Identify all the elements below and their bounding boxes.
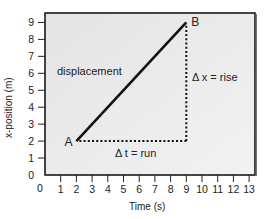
plot-shadow <box>256 14 257 176</box>
y-tick-label: 2 <box>28 135 34 147</box>
y-tick-label: 1 <box>28 152 34 164</box>
y-tick-label: 0 <box>28 169 34 181</box>
x-tick-label: 4 <box>105 183 111 195</box>
point-a-label: A <box>64 135 72 149</box>
y-tick-label: 5 <box>28 84 34 96</box>
x-tick-label: 12 <box>228 183 240 195</box>
x-axis-ticks: 012345678910111213 <box>37 175 255 195</box>
position-time-graph: 0123456789 012345678910111213 A B displa… <box>0 0 265 219</box>
x-tick-label: 1 <box>58 183 64 195</box>
rise-label: Δ x = rise <box>192 71 238 83</box>
y-tick-label: 9 <box>28 16 34 28</box>
x-tick-label: 2 <box>73 183 79 195</box>
x-tick-label: 9 <box>183 183 189 195</box>
y-tick-label: 7 <box>28 50 34 62</box>
x-tick-label: 5 <box>121 183 127 195</box>
y-tick-label: 8 <box>28 33 34 45</box>
x-tick-label: 3 <box>89 183 95 195</box>
x-tick-label: 13 <box>243 183 255 195</box>
chart-container: 0123456789 012345678910111213 A B displa… <box>0 0 265 219</box>
x-tick-label: 10 <box>196 183 208 195</box>
point-b-label: B <box>191 15 199 29</box>
y-tick-label: 6 <box>28 67 34 79</box>
x-tick-label: 6 <box>136 183 142 195</box>
displacement-label: displacement <box>57 65 122 77</box>
x-tick-label: 0 <box>37 182 43 194</box>
x-tick-label: 11 <box>212 183 223 195</box>
x-tick-label: 8 <box>168 183 174 195</box>
x-tick-label: 7 <box>152 183 158 195</box>
x-axis-label: Time (s) <box>129 201 165 212</box>
y-tick-label: 3 <box>28 118 34 130</box>
y-axis-label: x-position (m) <box>3 77 14 138</box>
run-label: Δ t = run <box>115 147 156 159</box>
y-tick-label: 4 <box>28 101 34 113</box>
y-axis-ticks: 0123456789 <box>28 16 45 181</box>
